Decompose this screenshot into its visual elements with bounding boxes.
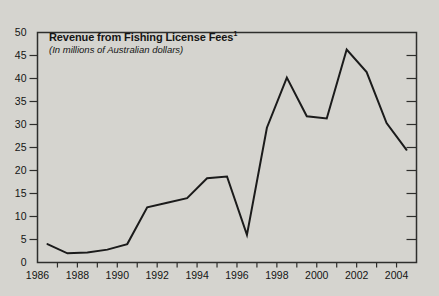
chart-title-text: Revenue from Fishing License Fees (49, 31, 233, 43)
y-axis-tick-label: 40 (15, 72, 27, 84)
y-axis-tick-label: 10 (15, 210, 27, 222)
x-axis-tick-label: 2000 (305, 269, 329, 281)
axis-ticks (30, 56, 417, 268)
y-axis-tick-label: 5 (21, 233, 27, 245)
y-axis-tick-label: 0 (21, 256, 27, 268)
y-axis-tick-label: 25 (15, 141, 27, 153)
x-axis-tick-label: 1998 (265, 269, 289, 281)
x-axis-tick-label: 1992 (146, 269, 170, 281)
y-axis-tick-label: 20 (15, 164, 27, 176)
chart-title: Revenue from Fishing License Fees1 (49, 31, 237, 44)
x-axis-tick-label: 2002 (345, 269, 369, 281)
x-axis-tick-label: 1988 (66, 269, 90, 281)
revenue-line (47, 50, 406, 254)
x-axis-tick-label: 1996 (225, 269, 249, 281)
footnote-marker: 1 (233, 30, 237, 37)
plot-frame (38, 33, 417, 263)
y-axis-tick-label: 45 (15, 49, 27, 61)
x-axis-tick-label: 1986 (26, 269, 50, 281)
y-axis-tick-label: 50 (15, 26, 27, 38)
chart-figure: 0510152025303540455019861988199019921994… (0, 0, 439, 296)
y-axis-tick-label: 35 (15, 95, 27, 107)
chart-subtitle: (In millions of Australian dollars) (49, 45, 237, 56)
y-axis-tick-label: 30 (15, 118, 27, 130)
x-axis-tick-label: 1994 (185, 269, 209, 281)
y-axis-tick-label: 15 (15, 187, 27, 199)
chart-title-block: Revenue from Fishing License Fees1 (In m… (49, 31, 237, 56)
x-axis-labels: 1986198819901992199419961998200020022004 (26, 269, 409, 281)
y-axis-labels: 05101520253035404550 (15, 26, 27, 268)
x-axis-tick-label: 2004 (385, 269, 409, 281)
x-axis-tick-label: 1990 (106, 269, 130, 281)
